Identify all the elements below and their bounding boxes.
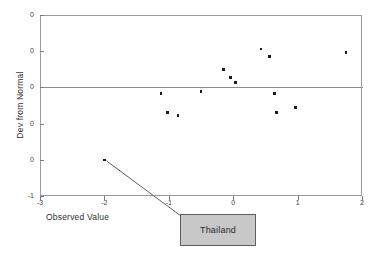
plot-area-frame xyxy=(40,15,362,196)
y-tick-label: 0 xyxy=(12,11,34,19)
y-tick-mark xyxy=(40,124,44,125)
y-tick-mark xyxy=(40,87,44,88)
y-axis-title: Dev from Normal xyxy=(15,50,25,160)
data-point xyxy=(234,81,237,84)
x-axis-title: Observed Value xyxy=(46,212,109,222)
data-point xyxy=(268,55,271,58)
data-point xyxy=(294,106,297,109)
x-tick-label: 2 xyxy=(350,199,374,207)
data-point xyxy=(166,111,169,114)
data-point xyxy=(200,90,203,93)
data-point xyxy=(345,51,348,54)
y-tick-mark xyxy=(40,160,44,161)
data-point xyxy=(103,159,106,162)
annotation-callout-thailand[interactable]: Thailand xyxy=(180,214,256,246)
data-point xyxy=(222,68,225,71)
scatter-chart: 00000-1 -3-2-1012 Observed Value Dev fro… xyxy=(0,0,379,258)
y-tick-mark xyxy=(40,15,44,16)
data-point xyxy=(275,111,278,114)
x-tick-label: -3 xyxy=(28,199,52,207)
data-point xyxy=(160,92,163,95)
x-tick-label: 0 xyxy=(221,199,245,207)
y-tick-mark xyxy=(40,51,44,52)
data-point xyxy=(229,76,232,79)
data-point xyxy=(273,92,276,95)
zero-reference-line xyxy=(40,87,363,88)
data-point xyxy=(260,48,263,51)
x-tick-label: -1 xyxy=(157,199,181,207)
data-point xyxy=(177,114,180,117)
x-tick-label: -2 xyxy=(92,199,116,207)
x-tick-label: 1 xyxy=(286,199,310,207)
annotation-label: Thailand xyxy=(200,225,236,235)
